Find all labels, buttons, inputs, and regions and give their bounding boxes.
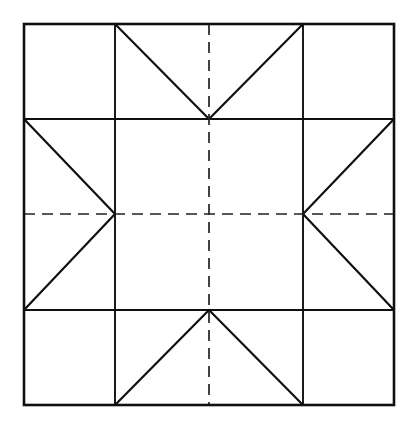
- diagram-canvas: [0, 0, 416, 428]
- quilt-block-diagram: [0, 0, 416, 428]
